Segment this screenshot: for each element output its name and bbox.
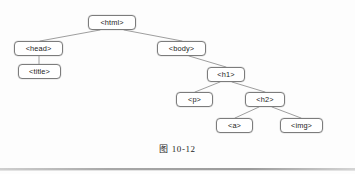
page-footer-rule-shadow <box>0 170 355 171</box>
tree-node-a[interactable]: <a> <box>216 118 253 133</box>
tree-edge-h2-to-a <box>235 107 259 118</box>
tree-node-title[interactable]: <title> <box>18 64 61 79</box>
tree-edge-html-to-head <box>40 30 100 41</box>
tree-edge-h1-to-p <box>195 82 220 92</box>
tree-node-body[interactable]: <body> <box>157 41 206 56</box>
tree-edge-h1-to-h2 <box>232 82 265 92</box>
tree-node-h1[interactable]: <h1> <box>207 67 245 82</box>
tree-node-img[interactable]: <img> <box>280 118 323 133</box>
figure-caption: 图 10-12 <box>0 142 355 155</box>
tree-node-html[interactable]: <html> <box>88 15 136 30</box>
tree-node-p[interactable]: <p> <box>176 92 213 107</box>
tree-node-head[interactable]: <head> <box>14 41 63 56</box>
tree-node-h2[interactable]: <h2> <box>245 92 285 107</box>
tree-edge-body-to-h1 <box>189 56 226 67</box>
tree-edge-h2-to-img <box>272 107 301 118</box>
figure-page: <html> <head> <body> <title> <h1> <p> <h… <box>0 0 355 174</box>
tree-edge-html-to-body <box>124 30 182 41</box>
